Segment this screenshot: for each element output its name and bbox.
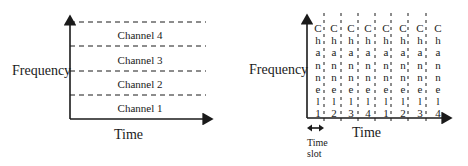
slot-letter: h [329, 34, 339, 46]
time-slot-double-arrow-icon [307, 125, 324, 132]
slot-letter: C [313, 22, 323, 34]
slot-letter: l [346, 95, 356, 107]
slot-letter: C [415, 22, 425, 34]
tdma-x-axis-label: Time [352, 126, 381, 140]
slot-letter: 2 [398, 107, 408, 119]
slot-letter: h [398, 34, 408, 46]
slot-letter: n [313, 59, 323, 71]
slot-letter: n [381, 59, 391, 71]
slot-letter: n [346, 59, 356, 71]
slot-letter: h [363, 34, 373, 46]
time-slot-channel-6: Channel2 [398, 22, 408, 120]
slot-letter: C [363, 22, 373, 34]
slot-letter: n [415, 71, 425, 83]
slot-letter: n [433, 71, 443, 83]
slot-letter: C [346, 22, 356, 34]
slot-letter: 4 [433, 107, 443, 119]
tdma-y-axis-label: Frequency [249, 63, 308, 77]
slot-letter: e [415, 83, 425, 95]
slot-letter: 3 [415, 107, 425, 119]
slot-letter: h [415, 34, 425, 46]
slot-letter: n [433, 59, 443, 71]
slot-letter: n [313, 71, 323, 83]
slot-letter: e [363, 83, 373, 95]
slot-letter: 2 [329, 107, 339, 119]
slot-letter: a [329, 46, 339, 58]
slot-letter: 1 [313, 107, 323, 119]
slot-letter: n [363, 59, 373, 71]
slot-letter: a [346, 46, 356, 58]
slot-letter: C [398, 22, 408, 34]
slot-letter: l [329, 95, 339, 107]
channel-label-1: Channel 1 [118, 103, 163, 114]
slot-letter: 4 [363, 107, 373, 119]
slot-letter: n [398, 71, 408, 83]
time-slot-label: Time slot [307, 137, 328, 159]
fdma-x-axis-label: Time [114, 128, 143, 142]
slot-letter: a [415, 46, 425, 58]
slot-letter: e [329, 83, 339, 95]
slot-letter: l [313, 95, 323, 107]
slot-letter: l [381, 95, 391, 107]
slot-letter: 1 [381, 107, 391, 119]
slot-letter: l [363, 95, 373, 107]
slot-letter: n [381, 71, 391, 83]
slot-letter: e [313, 83, 323, 95]
slot-letter: e [381, 83, 391, 95]
slot-letter: n [415, 59, 425, 71]
slot-letter: C [433, 22, 443, 34]
slot-letter: n [363, 71, 373, 83]
slot-letter: n [329, 59, 339, 71]
slot-letter: e [398, 83, 408, 95]
slot-letter: e [346, 83, 356, 95]
slot-letter: 3 [346, 107, 356, 119]
slot-letter: l [415, 95, 425, 107]
channel-label-2: Channel 2 [118, 79, 163, 90]
slot-letter: n [329, 71, 339, 83]
time-slot-channel-7: Channel3 [415, 22, 425, 120]
slot-letter: l [398, 95, 408, 107]
channel-label-3: Channel 3 [118, 55, 163, 66]
slot-letter: a [313, 46, 323, 58]
slot-letter: a [381, 46, 391, 58]
slot-letter: a [363, 46, 373, 58]
fdma-y-axis-label: Frequency [12, 64, 71, 78]
slot-letter: n [346, 71, 356, 83]
slot-letter: h [433, 34, 443, 46]
slot-letter: a [433, 46, 443, 58]
time-slot-channel-4: Channel4 [363, 22, 373, 120]
time-slot-channel-5: Channel1 [381, 22, 391, 120]
slot-letter: n [398, 59, 408, 71]
slot-letter: e [433, 83, 443, 95]
slot-letter: h [313, 34, 323, 46]
channel-label-4: Channel 4 [118, 30, 163, 41]
slot-letter: h [381, 34, 391, 46]
slot-letter: h [346, 34, 356, 46]
slot-letter: l [433, 95, 443, 107]
time-slot-channel-3: Channel3 [346, 22, 356, 120]
slot-letter: C [381, 22, 391, 34]
time-slot-channel-8: Channel4 [433, 22, 443, 120]
slot-letter: a [398, 46, 408, 58]
time-slot-channel-1: Channel1 [313, 22, 323, 120]
time-slot-channel-2: Channel2 [329, 22, 339, 120]
slot-letter: C [329, 22, 339, 34]
